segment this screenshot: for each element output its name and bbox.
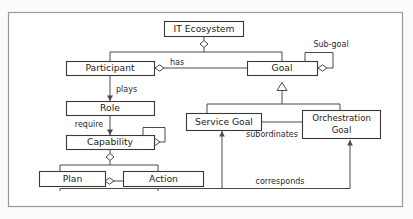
diagram-canvas: IT Ecosystem Participant Goal Role Capab… <box>0 0 413 219</box>
node-label-capability: Capability <box>87 136 134 147</box>
edge-label-has: has <box>170 58 184 67</box>
node-label-plan: Plan <box>63 173 83 184</box>
node-label-action: Action <box>149 173 178 184</box>
uml-class-diagram: IT Ecosystem Participant Goal Role Capab… <box>0 0 413 219</box>
node-label-service-goal: Service Goal <box>195 116 253 127</box>
edge-label-subordinates: subordinates <box>246 130 298 139</box>
edge-label-require: require <box>75 120 104 129</box>
edge-label-corresponds: corresponds <box>256 177 305 186</box>
node-label-participant: Participant <box>85 62 135 73</box>
node-label-goal: Goal <box>272 62 293 73</box>
node-label-orchestration-goal-line1: Orchestration <box>312 113 371 123</box>
node-label-role: Role <box>100 102 120 113</box>
node-label-it-ecosystem: IT Ecosystem <box>174 23 235 34</box>
edge-label-plays: plays <box>116 85 137 94</box>
edge-label-sub-goal: Sub-goal <box>313 40 348 49</box>
node-label-orchestration-goal-line2: Goal <box>332 125 352 135</box>
